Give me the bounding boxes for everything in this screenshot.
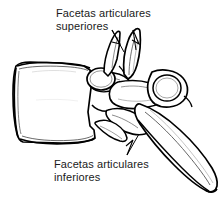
label-superior-line1: Facetas articulares <box>56 7 151 20</box>
superior-articular-process <box>104 29 140 79</box>
label-superior-line2: superiores <box>56 20 151 33</box>
label-superior-articular-facets: Facetas articulares superiores <box>56 7 151 32</box>
vertebra-figure: Facetas articulares superiores Facetas a… <box>0 0 223 215</box>
vertebral-arch-opening <box>148 70 192 107</box>
leader-line-inferior <box>126 134 139 155</box>
caption-strip <box>0 206 223 215</box>
label-inferior-articular-facets: Facetas articulares inferiores <box>54 158 149 183</box>
label-inferior-line1: Facetas articulares <box>54 158 149 171</box>
label-inferior-line2: inferiores <box>54 171 149 184</box>
vertebral-body <box>13 62 95 144</box>
